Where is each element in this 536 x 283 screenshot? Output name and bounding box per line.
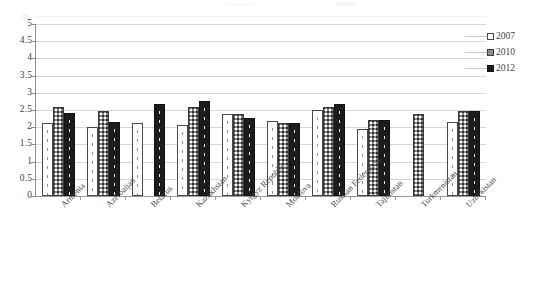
scan-artifact bbox=[225, 3, 255, 6]
bar-group bbox=[306, 24, 351, 196]
bar-group bbox=[216, 24, 261, 196]
x-tick-label: Kazakhstan bbox=[194, 202, 201, 209]
bar-group bbox=[126, 24, 171, 196]
y-tick-label: 0.5 bbox=[2, 174, 32, 184]
legend-swatch-2010 bbox=[487, 49, 494, 56]
legend-leader-line bbox=[465, 68, 487, 69]
bar-2012 bbox=[289, 123, 300, 196]
x-label-anchor: Tajikistan bbox=[374, 202, 375, 203]
bar-2010 bbox=[233, 114, 244, 196]
x-label-anchor: Russian Federation bbox=[329, 202, 330, 203]
x-tick-label: Turkmenistan bbox=[419, 202, 426, 209]
bar-2010 bbox=[323, 107, 334, 196]
y-tick-label: 2.5 bbox=[2, 105, 32, 115]
bar-2012 bbox=[154, 104, 165, 196]
bar-2007 bbox=[177, 125, 188, 196]
bar-group bbox=[171, 24, 216, 196]
legend-item: 2010 bbox=[487, 44, 536, 60]
legend-item: 2012 bbox=[487, 60, 536, 76]
bar-2012 bbox=[469, 111, 480, 196]
scan-artifact bbox=[36, 16, 486, 17]
bar-2012 bbox=[379, 120, 390, 196]
legend-label: 2012 bbox=[496, 63, 515, 73]
bar-group bbox=[81, 24, 126, 196]
y-tick-label: 3 bbox=[2, 88, 32, 98]
legend: 200720102012 bbox=[487, 28, 536, 76]
x-label-anchor: Azerbaijan bbox=[104, 202, 105, 203]
x-label-anchor: Turkmenistan bbox=[419, 202, 420, 203]
bar-2007 bbox=[87, 127, 98, 196]
bar-2012 bbox=[199, 101, 210, 196]
legend-label: 2010 bbox=[496, 47, 515, 57]
y-tick-label: 1 bbox=[2, 157, 32, 167]
bar-2010 bbox=[413, 114, 424, 196]
y-tick-label: 3.5 bbox=[2, 71, 32, 81]
y-tick-label: 2 bbox=[2, 122, 32, 132]
x-tick-label: Armenia bbox=[59, 202, 66, 209]
legend-swatch-2012 bbox=[487, 65, 494, 72]
legend-leader-line bbox=[465, 52, 487, 53]
bar-2012 bbox=[244, 118, 255, 196]
x-tick-label: Kyrgyz Republic bbox=[239, 202, 246, 209]
x-tick-label: Russian Federation bbox=[329, 202, 336, 209]
legend-swatch-2007 bbox=[487, 33, 494, 40]
bar-2010 bbox=[188, 107, 199, 196]
x-label-anchor: Kazakhstan bbox=[194, 202, 195, 203]
bar-group bbox=[36, 24, 81, 196]
y-tick-label: 4.5 bbox=[2, 36, 32, 46]
x-label-anchor: Moldova bbox=[284, 202, 285, 203]
plot-area bbox=[36, 24, 486, 196]
x-label-anchor: Uzbekistan bbox=[464, 202, 465, 203]
legend-label: 2007 bbox=[496, 31, 515, 41]
x-label-anchor: Belarus bbox=[149, 202, 150, 203]
bar-group bbox=[441, 24, 486, 196]
bar-2012 bbox=[64, 113, 75, 196]
bar-2010 bbox=[458, 111, 469, 196]
legend-leader-line bbox=[465, 36, 487, 37]
y-tick-label: 1.5 bbox=[2, 139, 32, 149]
y-tick-label: 5 bbox=[2, 19, 32, 29]
x-tick-label: Moldova bbox=[284, 202, 291, 209]
bar-2012 bbox=[334, 104, 345, 196]
bar-chart: 54.543.532.521.510.50 ArmeniaAzerbaijanB… bbox=[0, 0, 536, 283]
x-label-anchor: Armenia bbox=[59, 202, 60, 203]
bar-2007 bbox=[312, 110, 323, 196]
bar-group bbox=[396, 24, 441, 196]
x-tick-label: Belarus bbox=[149, 202, 156, 209]
x-axis-labels: ArmeniaAzerbaijanBelarusKazakhstanKyrgyz… bbox=[0, 196, 536, 283]
bar-2012 bbox=[109, 122, 120, 196]
legend-item: 2007 bbox=[487, 28, 536, 44]
bar-2010 bbox=[98, 111, 109, 196]
bar-2010 bbox=[53, 107, 64, 196]
x-label-anchor: Kyrgyz Republic bbox=[239, 202, 240, 203]
x-tick-label: Tajikistan bbox=[374, 202, 381, 209]
bar-2007 bbox=[42, 123, 53, 196]
y-tick-label: 4 bbox=[2, 53, 32, 63]
x-tick-label: Azerbaijan bbox=[104, 202, 111, 209]
scan-artifact bbox=[335, 2, 357, 6]
x-tick-label: Uzbekistan bbox=[464, 202, 471, 209]
